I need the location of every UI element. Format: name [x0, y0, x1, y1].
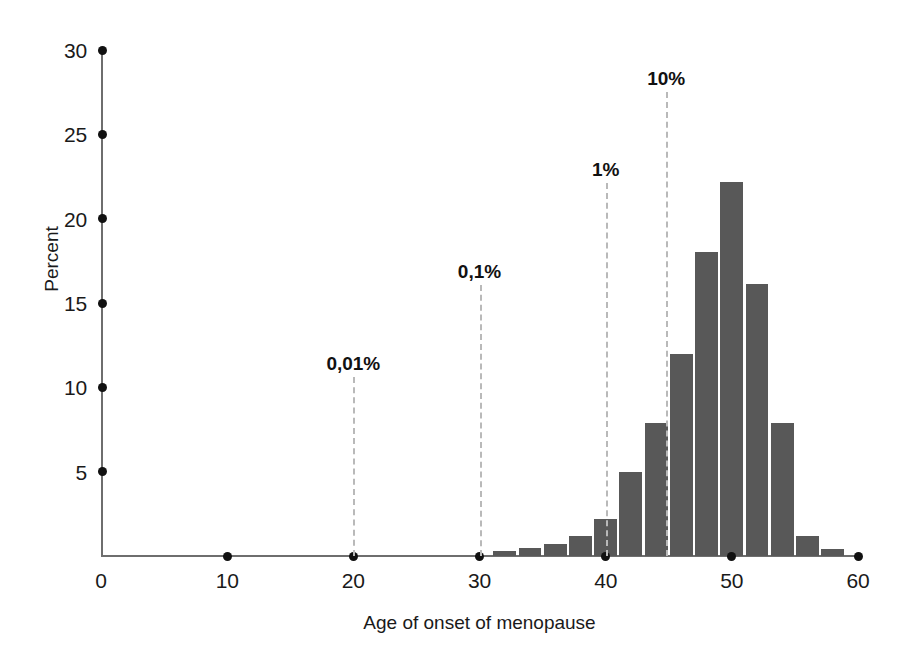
x-axis-tick-label: 20 — [323, 570, 383, 591]
histogram-bar — [670, 354, 693, 556]
x-axis-tick-label: 40 — [576, 570, 636, 591]
x-axis-tick-label: 60 — [828, 570, 888, 591]
histogram-bar — [544, 544, 567, 556]
y-axis-tick-label: 30 — [23, 40, 87, 61]
histogram-bar — [771, 423, 794, 556]
y-axis-tick-dot — [98, 46, 107, 55]
y-axis-tick-label: 10 — [23, 377, 87, 398]
histogram-plot: 010203040506051015202530 0,01%0,1%1%10% … — [0, 0, 905, 662]
y-axis-tick-dot — [98, 130, 107, 139]
histogram-bar — [519, 548, 542, 556]
y-axis-tick-dot — [98, 467, 107, 476]
annotation-leader-line — [606, 183, 608, 556]
annotation-leader-line — [480, 285, 482, 556]
x-axis-tick-dot — [854, 552, 863, 561]
y-axis-title: Percent — [41, 189, 63, 329]
x-axis-tick-label: 30 — [450, 570, 510, 591]
annotation-leader-line — [353, 377, 355, 556]
chart-page: 010203040506051015202530 0,01%0,1%1%10% … — [0, 0, 905, 662]
x-axis-tick-label: 0 — [71, 570, 131, 591]
histogram-bar — [569, 536, 592, 556]
histogram-bar — [821, 549, 844, 556]
histogram-bar — [645, 423, 668, 556]
histogram-bar — [493, 551, 516, 556]
annotation-leader-line — [666, 92, 668, 556]
y-axis-tick-label: 5 — [23, 462, 87, 483]
histogram-bar — [720, 182, 743, 556]
x-axis-tick-dot — [727, 552, 736, 561]
annotation-label: 10% — [647, 68, 685, 90]
annotation-label: 1% — [592, 159, 619, 181]
histogram-bar — [796, 536, 819, 556]
histogram-bar — [746, 284, 769, 556]
x-axis-tick-label: 50 — [702, 570, 762, 591]
y-axis-tick-dot — [98, 214, 107, 223]
y-axis-tick-dot — [98, 299, 107, 308]
y-axis-tick-dot — [98, 383, 107, 392]
x-axis-title: Age of onset of menopause — [101, 612, 858, 634]
x-axis-tick-label: 10 — [197, 570, 257, 591]
y-axis-tick-label: 25 — [23, 124, 87, 145]
annotation-label: 0,01% — [326, 353, 380, 375]
histogram-bar — [619, 472, 642, 556]
annotation-label: 0,1% — [458, 261, 501, 283]
histogram-bar — [695, 252, 718, 556]
x-axis-tick-dot — [223, 552, 232, 561]
